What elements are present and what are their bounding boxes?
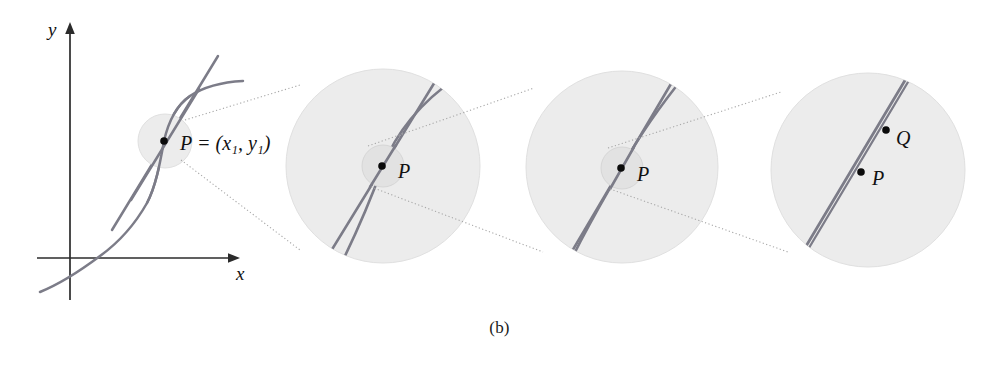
panel-magnification-level-1: P <box>286 69 480 263</box>
point-q-label-zoom3: Q <box>896 127 911 149</box>
figure-caption: (b) <box>0 318 999 338</box>
point-p-marker-zoom2 <box>617 164 625 172</box>
x-axis-arrowhead <box>228 253 240 263</box>
point-q-marker-zoom3 <box>882 126 890 134</box>
connector-1-bottom-line <box>181 160 300 250</box>
y-axis-arrowhead <box>65 22 75 34</box>
point-p-marker-zoom3 <box>857 168 865 176</box>
axes-group <box>37 22 240 300</box>
point-p-equation-label: = (x₁, y₁) <box>197 132 271 155</box>
x-axis-label: x <box>235 263 245 284</box>
y-axis-label: y <box>46 19 57 40</box>
point-p-label-zoom3: P <box>871 167 884 189</box>
connector-group-1 <box>181 85 300 250</box>
point-p-label-graph: P <box>179 132 192 154</box>
point-p-marker-zoom1 <box>378 162 386 170</box>
panel-original-graph: y x P = (x₁, y₁) <box>37 19 271 300</box>
tangent-zoom-figure: y x P = (x₁, y₁) P <box>0 0 999 366</box>
panel-magnification-level-3: P Q <box>771 72 965 268</box>
magnifier-circle-level-3 <box>771 73 965 267</box>
figure-canvas: y x P = (x₁, y₁) P <box>0 0 999 366</box>
panel-magnification-level-2: P <box>526 71 718 263</box>
point-p-marker-graph <box>160 137 168 145</box>
point-p-label-zoom1: P <box>397 160 410 182</box>
point-p-label-zoom2: P <box>636 163 649 185</box>
